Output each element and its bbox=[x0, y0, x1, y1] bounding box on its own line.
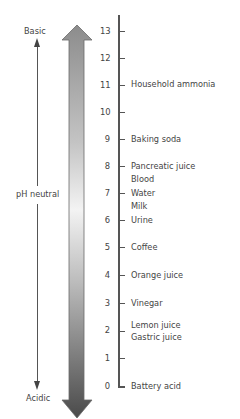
tick-value-11: 11 bbox=[100, 80, 110, 90]
label-vinegar: Vinegar bbox=[131, 298, 163, 308]
tick-value-13: 13 bbox=[100, 26, 110, 36]
tick-mark-12 bbox=[119, 58, 125, 59]
label-water: Water bbox=[131, 188, 155, 198]
tick-value-8: 8 bbox=[100, 161, 110, 171]
tick-mark-9 bbox=[119, 139, 125, 140]
tick-value-10: 10 bbox=[100, 107, 110, 117]
label-household-ammonia: Household ammonia bbox=[131, 79, 215, 89]
tick-value-9: 9 bbox=[100, 134, 110, 144]
tick-mark-13 bbox=[119, 31, 125, 32]
tick-value-1: 1 bbox=[100, 353, 110, 363]
tick-mark-7 bbox=[119, 193, 125, 194]
tick-mark-3 bbox=[119, 303, 125, 304]
label-baking-soda: Baking soda bbox=[131, 134, 181, 144]
tick-mark-5 bbox=[119, 247, 125, 248]
tick-value-0: 0 bbox=[100, 381, 110, 391]
label-pancreatic-juice: Pancreatic juice bbox=[131, 161, 195, 171]
label-milk: Milk bbox=[131, 201, 147, 211]
tick-mark-11 bbox=[119, 85, 125, 86]
basic-arrowhead-icon bbox=[34, 38, 40, 47]
label-blood: Blood bbox=[131, 174, 154, 184]
tick-value-3: 3 bbox=[100, 298, 110, 308]
label-orange-juice: Orange juice bbox=[131, 270, 183, 280]
tick-value-6: 6 bbox=[100, 215, 110, 225]
tick-value-4: 4 bbox=[100, 270, 110, 280]
arrows-graphic bbox=[0, 0, 240, 419]
label-battery-acid: Battery acid bbox=[131, 381, 181, 391]
ph-scale-baseline bbox=[118, 386, 125, 388]
tick-mark-8 bbox=[119, 166, 125, 167]
tick-mark-10 bbox=[119, 112, 125, 113]
tick-value-5: 5 bbox=[100, 242, 110, 252]
tick-value-7: 7 bbox=[100, 188, 110, 198]
acidic-arrowhead-icon bbox=[34, 381, 40, 390]
tick-mark-4 bbox=[119, 275, 125, 276]
label-coffee: Coffee bbox=[131, 242, 157, 252]
label-lemon-juice: Lemon juice bbox=[131, 320, 181, 330]
tick-mark-1 bbox=[119, 358, 125, 359]
label-urine: Urine bbox=[131, 215, 153, 225]
tick-value-2: 2 bbox=[100, 325, 110, 335]
tick-mark-6 bbox=[119, 220, 125, 221]
tick-value-12: 12 bbox=[100, 53, 110, 63]
ph-gradient-arrow-icon bbox=[62, 25, 92, 418]
tick-mark-2 bbox=[119, 331, 125, 332]
label-gastric-juice: Gastric juice bbox=[131, 332, 182, 342]
